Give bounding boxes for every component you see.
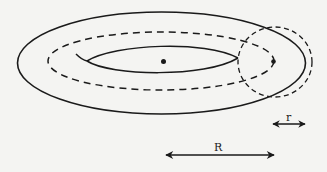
inner-hole-upper [87, 46, 238, 61]
torus-diagram: r R [0, 0, 327, 172]
tube-center [271, 59, 276, 64]
center-circle-path [48, 32, 274, 90]
major-radius-label: R [214, 141, 223, 154]
torus-center [161, 59, 166, 64]
inner-hole-tick [76, 54, 87, 61]
minor-radius-label: r [286, 111, 292, 124]
